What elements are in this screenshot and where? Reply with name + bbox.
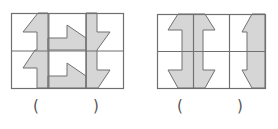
figure-1 <box>12 13 124 89</box>
figure-2 <box>158 14 266 89</box>
figure-1-answer-close-paren: ) <box>93 99 99 114</box>
bottom-flag-arrow-shape <box>48 63 86 88</box>
top-flag-arrow-shape <box>48 25 86 50</box>
figure-2-answer-blank[interactable] <box>186 99 236 115</box>
figure-2-answer-close-paren: ) <box>237 99 243 114</box>
figure-1-answer-open-paren: ( <box>33 99 39 114</box>
figure-1-answer-blank[interactable] <box>42 99 92 115</box>
figure-2-answer-open-paren: ( <box>177 99 183 114</box>
